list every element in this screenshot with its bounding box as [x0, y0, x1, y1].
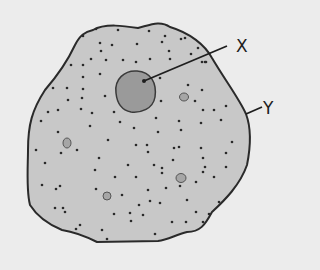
granule — [95, 188, 98, 191]
granule — [205, 61, 208, 64]
granule — [165, 187, 168, 190]
granule — [164, 35, 167, 38]
granule — [111, 44, 114, 47]
granule — [127, 164, 130, 167]
granule — [157, 131, 160, 134]
vacuole — [103, 192, 111, 200]
granule — [161, 172, 164, 175]
granule — [202, 157, 205, 160]
granule — [160, 100, 163, 103]
granule — [117, 29, 120, 32]
granule — [104, 95, 107, 98]
granule — [90, 58, 93, 61]
granule — [95, 28, 98, 31]
granule — [82, 88, 85, 91]
granule — [184, 37, 187, 40]
granule — [99, 73, 102, 76]
granule — [35, 149, 38, 152]
granule — [218, 201, 221, 204]
granule — [100, 50, 103, 53]
granule — [81, 97, 84, 100]
granule — [195, 211, 198, 214]
granule — [155, 117, 158, 120]
granule — [138, 204, 141, 207]
granule — [91, 112, 94, 115]
granule — [136, 43, 139, 46]
granule — [60, 152, 63, 155]
granule — [76, 149, 79, 152]
granule — [168, 50, 171, 53]
granule — [154, 233, 157, 236]
granule — [171, 221, 174, 224]
granule — [202, 221, 205, 224]
granule — [67, 99, 70, 102]
granule — [55, 188, 58, 191]
granule — [40, 120, 43, 123]
granule — [147, 189, 150, 192]
granule — [202, 109, 205, 112]
granule — [62, 207, 65, 210]
granule — [202, 171, 205, 174]
granule — [149, 200, 152, 203]
granule — [180, 129, 183, 132]
granule — [94, 169, 97, 172]
granule — [113, 213, 116, 216]
granule — [178, 120, 181, 123]
granule — [122, 59, 125, 62]
granule — [129, 212, 132, 215]
granule — [179, 185, 182, 188]
granule — [82, 64, 85, 67]
granule — [82, 35, 85, 38]
granule — [213, 109, 216, 112]
granule — [44, 162, 47, 165]
granule — [75, 228, 78, 231]
granule — [149, 58, 152, 61]
granule — [113, 111, 116, 114]
granule — [231, 141, 234, 144]
granule — [178, 146, 181, 149]
granule — [64, 211, 67, 214]
granule — [147, 151, 150, 154]
granule — [106, 238, 109, 241]
granule — [66, 87, 69, 90]
granule — [159, 202, 162, 205]
granule — [200, 122, 203, 125]
granule — [185, 221, 188, 224]
granule — [197, 47, 200, 50]
granule — [135, 61, 138, 64]
vacuole — [63, 138, 71, 148]
label-X: X — [236, 36, 248, 56]
granule — [180, 38, 183, 41]
granule — [208, 213, 211, 216]
granule — [153, 164, 156, 167]
granule — [107, 139, 110, 142]
granule — [99, 42, 102, 45]
granule — [201, 61, 204, 64]
granule — [190, 53, 193, 56]
granule — [80, 108, 83, 111]
granule — [194, 100, 197, 103]
granule — [225, 166, 228, 169]
granule — [57, 131, 60, 134]
granule — [195, 181, 198, 184]
granule — [101, 229, 104, 232]
label-Y: Y — [262, 98, 274, 118]
granule — [173, 147, 176, 150]
granule — [161, 167, 164, 170]
granule — [54, 207, 57, 210]
granule — [161, 41, 164, 44]
granule — [98, 157, 101, 160]
granule — [52, 87, 55, 90]
vacuole — [176, 174, 186, 183]
granule — [130, 220, 133, 223]
vacuole — [180, 93, 189, 101]
granule — [135, 176, 138, 179]
granule — [142, 214, 145, 217]
granule — [57, 109, 60, 112]
granule — [225, 152, 228, 155]
granule — [133, 127, 136, 130]
granule — [213, 176, 216, 179]
granule — [186, 199, 189, 202]
granule — [105, 59, 108, 62]
granule — [172, 159, 175, 162]
